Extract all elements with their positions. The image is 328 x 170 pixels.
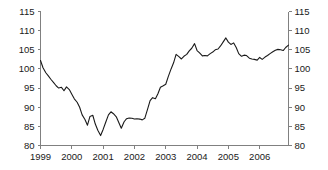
y-axis-right-tick-label: 90 (295, 102, 306, 113)
x-axis-tick-label: 2003 (155, 151, 176, 162)
y-axis-right: 80859095100105110115 (289, 6, 311, 151)
x-axis-tick-label: 2000 (61, 151, 82, 162)
y-axis-left-tick-label: 80 (24, 140, 35, 151)
y-axis-right-tick-label: 105 (295, 44, 311, 55)
y-axis-left-tick-label: 105 (19, 44, 35, 55)
x-axis: 19992000200120022003200420052006 (30, 146, 289, 162)
y-axis-left-tick-label: 90 (24, 102, 35, 113)
y-axis-right-tick-label: 95 (295, 82, 306, 93)
y-axis-left: 80859095100105110115 (19, 6, 41, 151)
x-axis-tick-label: 2005 (218, 151, 239, 162)
y-axis-left-tick-label: 110 (19, 25, 34, 36)
data-series-line (41, 38, 289, 136)
data-series-group (41, 38, 289, 136)
x-axis-tick-label: 2002 (124, 151, 145, 162)
y-axis-left-tick-label: 115 (19, 6, 34, 17)
x-axis-tick-label: 2004 (186, 151, 207, 162)
y-axis-right-tick-label: 115 (295, 6, 310, 17)
y-axis-left-tick-label: 95 (24, 82, 35, 93)
y-axis-right-tick-label: 80 (295, 140, 306, 151)
chart-canvas: 80859095100105110115 8085909510010511011… (0, 0, 328, 170)
line-chart: 80859095100105110115 8085909510010511011… (0, 0, 328, 170)
y-axis-left-tick-label: 85 (24, 121, 35, 132)
y-axis-right-tick-label: 85 (295, 121, 306, 132)
x-axis-tick-label: 2006 (249, 151, 270, 162)
x-axis-tick-label: 2001 (93, 151, 114, 162)
y-axis-right-tick-label: 110 (295, 25, 310, 36)
y-axis-right-tick-label: 100 (295, 63, 311, 74)
y-axis-left-tick-label: 100 (19, 63, 35, 74)
x-axis-tick-label: 1999 (30, 151, 51, 162)
